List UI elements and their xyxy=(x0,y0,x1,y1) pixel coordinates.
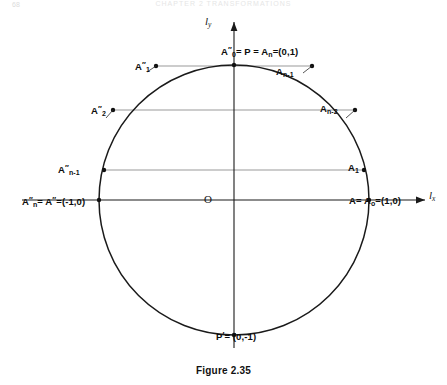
point-marker-top xyxy=(232,63,236,67)
y-axis-label: ly xyxy=(205,15,211,29)
y-axis-arrowhead xyxy=(231,22,238,31)
leader-an-minus-2-right xyxy=(346,110,355,118)
point-marker-a1-right xyxy=(362,168,366,172)
label-a1-double-prime: A″1 xyxy=(135,60,150,73)
leader-a2-dprime xyxy=(106,110,113,118)
label-an-minus-1: An-1 xyxy=(276,66,294,78)
label-an-minus-2: An-2 xyxy=(320,103,338,115)
label-top-point: A″0= P = An=(0,1) xyxy=(221,45,298,58)
point-marker-left xyxy=(97,198,101,202)
label-right-x-point: A= Ao=(1,0) xyxy=(349,195,401,207)
point-marker-an-minus-1-dprime xyxy=(102,168,106,172)
label-a1: A1 xyxy=(348,162,359,174)
label-bottom-point: P′= (0,-1) xyxy=(216,330,256,342)
x-axis-label: lx xyxy=(429,189,435,203)
label-a2-double-prime: A″2 xyxy=(91,104,106,117)
leader-an-minus-1-right xyxy=(303,66,312,73)
figure-caption: Figure 2.35 xyxy=(0,365,447,376)
label-left-x-point: A″n= A″=(-1,0) xyxy=(22,195,85,208)
figure-page: 68 CHAPTER 2 TRANSFORMATIONS xyxy=(0,0,447,385)
x-axis-arrowhead xyxy=(416,197,425,204)
origin-label: O xyxy=(204,193,212,205)
label-an-minus-1-double-prime: A″n-1 xyxy=(58,163,80,176)
